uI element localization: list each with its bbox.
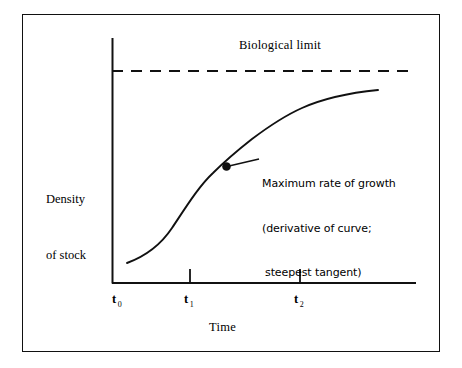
annotation-line-2: (derivative of curve; <box>262 222 396 237</box>
y-axis-label-line2: of stock <box>46 246 86 265</box>
annotation-line-3: steepest tangent) <box>262 266 396 281</box>
annotation-line-1: Maximum rate of growth <box>262 177 396 192</box>
y-axis-label-line1: Density <box>46 190 86 209</box>
tick-label-t0-base: t <box>112 292 116 306</box>
tick-label-t1-base: t <box>184 292 188 306</box>
inflection-point-marker <box>222 162 231 171</box>
tick-label-t0: t0 <box>112 292 120 307</box>
tick-label-t1-sub: 1 <box>190 300 194 309</box>
x-axis-label: Time <box>209 320 236 335</box>
biological-limit-label: Biological limit <box>239 38 321 53</box>
tick-label-t1: t1 <box>184 292 192 307</box>
y-axis-label: Density of stock <box>46 152 86 302</box>
annotation-leader-line <box>229 159 259 166</box>
maximum-rate-annotation: Maximum rate of growth (derivative of cu… <box>262 148 396 310</box>
figure-root: Biological limit Density of stock Time t… <box>0 0 462 368</box>
tick-label-t0-sub: 0 <box>118 300 122 309</box>
